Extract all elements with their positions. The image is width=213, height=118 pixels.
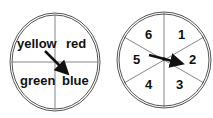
number-spinner: 6 1 2 3 4 5 xyxy=(117,12,211,108)
section-label: 3 xyxy=(176,77,183,92)
spinner-arrow-icon xyxy=(45,51,66,72)
spinners-diagram: yellow red green blue 6 1 2 3 4 5 xyxy=(0,0,213,118)
section-label: 4 xyxy=(145,77,153,92)
section-label: 2 xyxy=(189,52,196,67)
section-label: 6 xyxy=(145,27,152,42)
spinner-pivot xyxy=(162,57,166,61)
section-label: red xyxy=(66,36,86,51)
section-label: yellow xyxy=(17,36,58,51)
section-label: 5 xyxy=(133,52,140,67)
section-label: blue xyxy=(62,73,89,88)
color-spinner: yellow red green blue xyxy=(10,13,100,111)
section-label: green xyxy=(20,73,55,88)
section-label: 1 xyxy=(178,27,185,42)
